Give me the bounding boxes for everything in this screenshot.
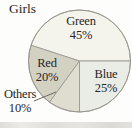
slice-label-red: Red 20% [36, 57, 58, 84]
slice-percent-others: 10% [9, 101, 31, 115]
slice-label-green: Green 45% [66, 15, 96, 42]
slice-label-blue: Blue 25% [95, 68, 118, 95]
slice-percent-blue: 25% [95, 81, 117, 95]
slice-name-blue: Blue [95, 68, 118, 82]
slice-percent-green: 45% [70, 28, 92, 42]
slice-name-others: Others [4, 88, 36, 102]
slice-label-others: Others 10% [4, 88, 36, 115]
scan-artifact-strip [0, 122, 132, 128]
chart-title: Girls [9, 2, 36, 16]
slice-name-green: Green [66, 15, 96, 29]
slice-percent-red: 20% [36, 70, 58, 84]
pie-chart-figure: Girls Green 45% Red 20% Others 10% Blue … [0, 0, 132, 128]
slice-name-red: Red [37, 57, 57, 71]
